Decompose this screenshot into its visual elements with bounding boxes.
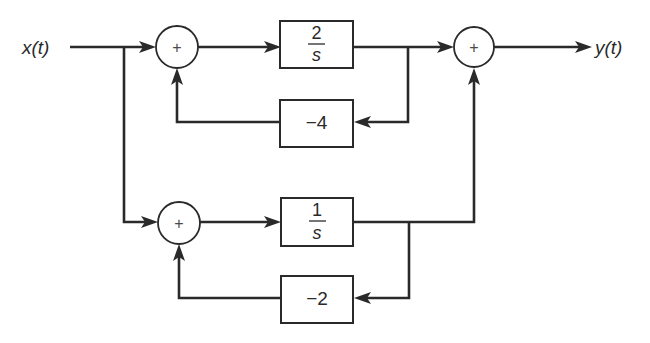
lower-forward-denominator: s <box>313 223 322 243</box>
block-diagram: x(t) + 2 s −4 + y(t) + <box>0 0 650 343</box>
wire-lower-feedback-to-sum3 <box>179 252 281 298</box>
sum3-plus: + <box>174 215 183 232</box>
sum2-plus: + <box>469 39 478 56</box>
sum1-plus: + <box>172 39 181 56</box>
output-signal-label: y(t) <box>593 37 622 58</box>
upper-feedback-gain: −4 <box>306 112 328 133</box>
upper-forward-numerator: 2 <box>311 23 321 43</box>
wire-lower-feedback-tap <box>362 222 409 298</box>
lower-feedback-gain: −2 <box>306 288 328 309</box>
lower-forward-numerator: 1 <box>312 200 322 220</box>
upper-forward-denominator: s <box>312 45 321 65</box>
block-lower-forward: 1 s <box>281 198 353 246</box>
wire-lower-forward-to-sum2 <box>353 76 474 222</box>
input-signal-label: x(t) <box>21 37 49 58</box>
summing-junction-1: + <box>156 26 198 68</box>
wire-upper-feedback-tap <box>362 47 408 122</box>
wire-branch-to-sum3 <box>124 47 148 222</box>
wire-upper-feedback-to-sum1 <box>177 76 280 122</box>
summing-junction-2: + <box>454 27 494 67</box>
block-upper-forward: 2 s <box>280 21 353 68</box>
block-upper-feedback: −4 <box>280 100 353 147</box>
summing-junction-3: + <box>158 202 200 244</box>
block-lower-feedback: −2 <box>281 276 353 323</box>
